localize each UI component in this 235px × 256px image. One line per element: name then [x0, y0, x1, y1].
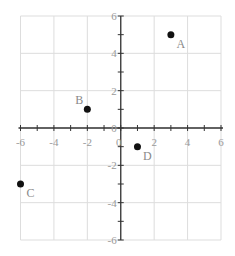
x-tick-label: -4 — [49, 136, 59, 148]
x-tick-label: -2 — [83, 136, 92, 148]
x-tick-label: 6 — [218, 136, 224, 148]
data-points: ABCD — [17, 31, 186, 200]
y-tick-label: 0 — [111, 122, 117, 134]
x-tick-label: 2 — [151, 136, 157, 148]
y-tick-label: -2 — [108, 159, 117, 171]
x-tick-label: 0 — [116, 136, 122, 148]
y-tick-label: 6 — [111, 10, 117, 22]
point-marker — [17, 181, 24, 188]
y-tick-label: -4 — [108, 197, 118, 209]
point-marker — [84, 106, 91, 113]
point-b: B — [75, 93, 91, 113]
point-label: A — [177, 37, 186, 51]
point-d: D — [134, 143, 152, 163]
point-marker — [134, 143, 141, 150]
point-c: C — [17, 181, 35, 201]
y-tick-label: -6 — [108, 234, 118, 246]
x-tick-label: -6 — [16, 136, 26, 148]
point-marker — [167, 31, 174, 38]
point-label: C — [26, 186, 34, 200]
y-tick-label: 2 — [111, 85, 117, 97]
point-label: D — [143, 149, 152, 163]
point-a: A — [167, 31, 185, 51]
y-tick-label: 4 — [111, 47, 117, 59]
x-tick-label: 4 — [185, 136, 191, 148]
x-tick-labels: -6-4-20246 — [16, 136, 224, 148]
point-label: B — [75, 93, 83, 107]
coordinate-plane: -6-4-20246-6-4-20246ABCD — [0, 0, 235, 256]
